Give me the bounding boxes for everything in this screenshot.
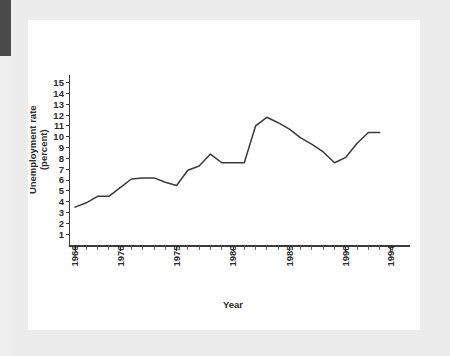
y-axis-tick-label: 14 [53, 88, 64, 99]
y-axis-tick-label: 3 [59, 207, 64, 218]
y-axis-tick-label: 2 [59, 218, 64, 229]
y-axis-tick-label: 8 [59, 153, 64, 164]
y-axis: 123456789101112131415 [53, 75, 70, 247]
x-axis-tick-label: 1980 [227, 245, 238, 266]
x-axis-tick-label: 1990 [340, 245, 351, 266]
y-axis-tick-label: 1 [59, 229, 65, 240]
page-edge-tab [0, 0, 11, 56]
screenshot-page: 123456789101112131415 196619701975198019… [0, 0, 450, 356]
y-axis-tick-label: 7 [59, 164, 64, 175]
y-axis-tick-label: 11 [54, 120, 65, 131]
data-series-line [75, 117, 380, 207]
y-axis-title: Unemployment rate(percent) [28, 105, 49, 194]
y-axis-tick-label: 12 [53, 110, 64, 121]
y-axis-tick-label: 4 [59, 196, 65, 207]
x-axis-tick-label: 1970 [115, 245, 126, 266]
x-axis: 1966197019751980198519901994 [69, 245, 410, 267]
y-axis-tick-label: 9 [59, 142, 64, 153]
y-axis-tick-label: 13 [53, 99, 64, 110]
y-axis-title-line1: Unemployment rate [28, 105, 38, 194]
y-axis-tick-label: 5 [59, 185, 65, 196]
data-series-group [75, 117, 380, 207]
line-chart: 123456789101112131415 196619701975198019… [28, 20, 420, 330]
x-axis-tick-label: 1994 [385, 245, 396, 267]
y-axis-tick-label: 6 [59, 174, 64, 185]
chart-figure-panel: 123456789101112131415 196619701975198019… [28, 20, 420, 330]
y-axis-title-line2: (percent) [38, 129, 49, 170]
x-axis-tick-label: 1966 [69, 245, 80, 266]
x-axis-tick-label: 1985 [284, 245, 295, 267]
x-axis-title: Year [223, 299, 243, 310]
y-axis-tick-label: 10 [53, 131, 64, 142]
x-axis-tick-label: 1975 [171, 245, 182, 267]
y-axis-tick-label: 15 [53, 77, 64, 88]
